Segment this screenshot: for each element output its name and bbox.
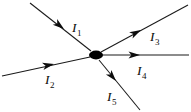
branch-label-i5: I5 <box>106 89 117 107</box>
branch-label-subscript-i5: 5 <box>112 97 117 107</box>
junction-node-dot <box>89 51 103 60</box>
junction-node-group <box>89 51 103 60</box>
branch-line-i3 <box>101 5 188 52</box>
branch-label-i3: I3 <box>149 29 160 47</box>
branch-label-subscript-i3: 3 <box>155 37 160 47</box>
branch-label-subscript-i1: 1 <box>77 28 82 38</box>
branch-label-i2: I2 <box>44 72 55 90</box>
branch-label-subscript-i2: 2 <box>50 80 55 90</box>
arrow-heads-group <box>42 19 143 83</box>
arrow-head-i3 <box>129 27 143 39</box>
diagram-canvas: I1I2I3I4I5 <box>0 0 191 112</box>
branch-label-subscript-i4: 4 <box>142 71 147 81</box>
branch-line-i5 <box>99 60 140 110</box>
branch-label-i1: I1 <box>71 20 82 38</box>
branch-label-i4: I4 <box>136 63 147 81</box>
current-junction-diagram: I1I2I3I4I5 <box>0 0 191 112</box>
